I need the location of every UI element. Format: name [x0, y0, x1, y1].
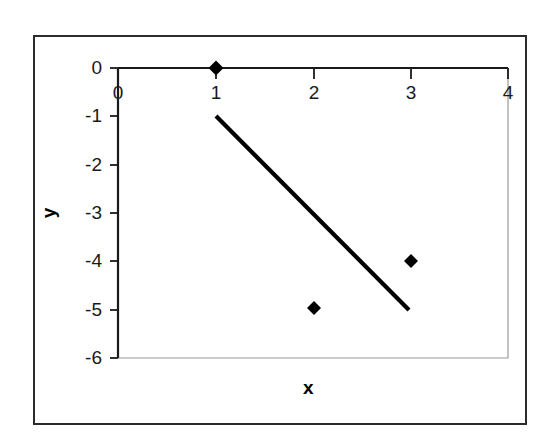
y-tick-label-2: -2 — [62, 154, 102, 176]
y-tick-label-6: -6 — [62, 347, 102, 369]
x-axis-title: x — [303, 377, 314, 399]
y-tick-label-4: -4 — [62, 250, 102, 272]
x-tick-label-1: 1 — [201, 82, 231, 104]
y-tick-label-3: -3 — [62, 202, 102, 224]
trend-line — [216, 116, 409, 310]
y-axis-title: y — [38, 208, 60, 219]
y-tick-label-1: -1 — [62, 105, 102, 127]
y-tick-marks — [110, 68, 118, 358]
x-tick-marks — [118, 68, 508, 79]
x-tick-label-3: 3 — [396, 82, 426, 104]
x-tick-label-2: 2 — [299, 82, 329, 104]
data-point — [209, 61, 224, 76]
y-tick-label-5: -5 — [62, 299, 102, 321]
x-tick-label-4: 4 — [493, 82, 523, 104]
data-point — [404, 254, 418, 268]
chart-figure: y x 0 -1 -2 -3 -4 -5 -6 0 1 2 3 4 — [0, 0, 547, 445]
x-tick-label-0: 0 — [103, 82, 133, 104]
y-tick-label-0: 0 — [62, 57, 102, 79]
data-point — [307, 301, 321, 315]
